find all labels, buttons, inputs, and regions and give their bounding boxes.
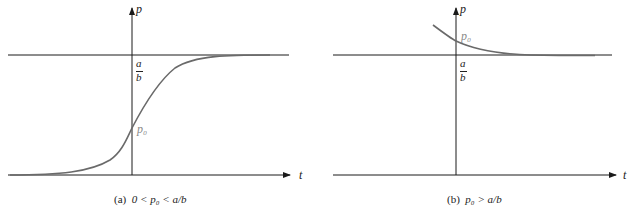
equilibrium-denominator: b (460, 71, 466, 83)
caption-a: (a) 0 < p₀ < a/b (114, 193, 186, 205)
p-axis-label: p (460, 2, 466, 17)
decay-curve (433, 25, 595, 56)
equilibrium-numerator: a (136, 57, 142, 69)
t-axis-label: t (299, 168, 302, 183)
logistic-diagrams (0, 0, 634, 214)
p0-label: p₀ (461, 29, 471, 44)
caption-b: (b) p₀ > a/b (447, 193, 502, 205)
equilibrium-numerator: a (460, 57, 466, 69)
p-axis-label: p (136, 2, 142, 17)
panel-b (333, 8, 616, 175)
equilibrium-denominator: b (136, 71, 142, 83)
p0-label: p₀ (137, 122, 147, 137)
t-axis-label: t (623, 168, 626, 183)
panel-a (8, 8, 290, 175)
